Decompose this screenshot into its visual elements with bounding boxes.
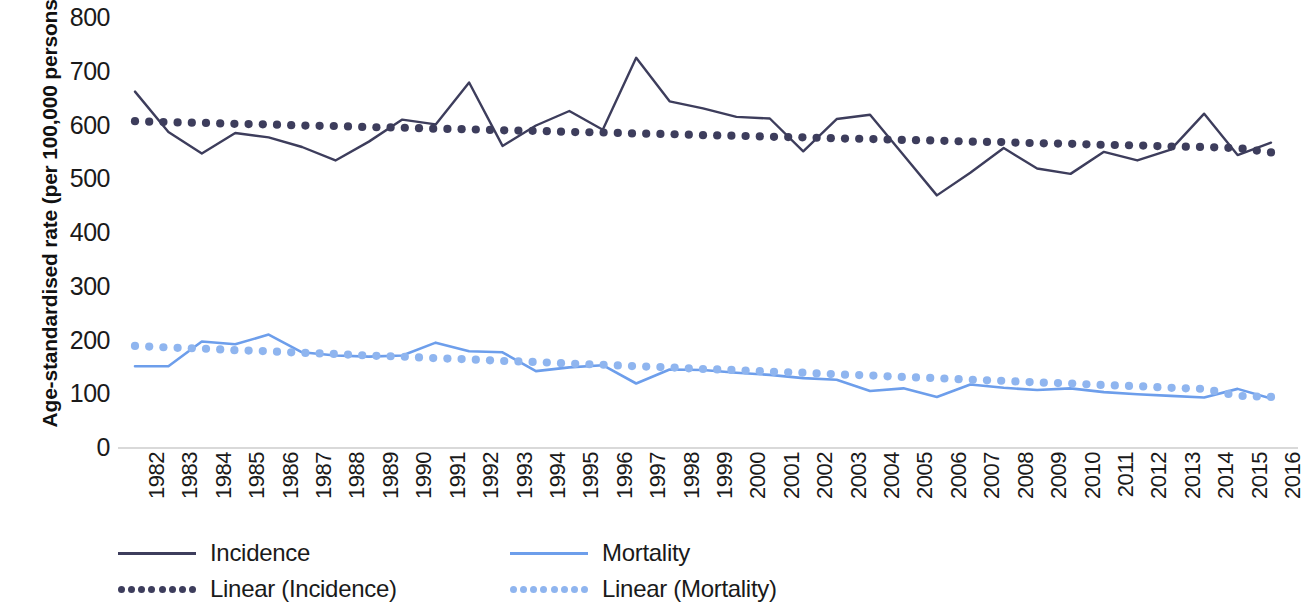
y-axis-tick-label: 600 [40, 113, 110, 138]
x-axis-tick-label: 1988 [346, 452, 368, 526]
y-axis-tick-label: 800 [40, 5, 110, 30]
y-axis-tick-label: 500 [40, 166, 110, 191]
x-axis-tick-label: 1986 [280, 452, 302, 526]
x-axis-tick-label: 1991 [447, 452, 469, 526]
legend-swatch-dotted-icon [510, 579, 588, 599]
y-axis-tick-label: 700 [40, 59, 110, 84]
x-axis-tick-label: 2002 [814, 452, 836, 526]
x-axis-tick-label: 1993 [514, 452, 536, 526]
x-axis-tick-label: 2009 [1048, 452, 1070, 526]
x-axis-tick-label: 2013 [1182, 452, 1204, 526]
y-axis-tick-label: 200 [40, 328, 110, 353]
trendline-linear-incidence- [131, 117, 1275, 156]
legend-label: Linear (Mortality) [602, 575, 777, 603]
x-axis-tick-label: 2010 [1082, 452, 1104, 526]
x-axis-tick-label: 2012 [1148, 452, 1170, 526]
x-axis-tick-label: 2015 [1249, 452, 1271, 526]
x-axis-tick-label: 1987 [313, 452, 335, 526]
x-axis-tick-label: 2006 [948, 452, 970, 526]
x-axis-tick-label: 2003 [848, 452, 870, 526]
legend-swatch-solid-icon [510, 543, 588, 563]
x-axis-tick-label: 1990 [413, 452, 435, 526]
x-axis-tick-label: 1989 [380, 452, 402, 526]
legend-label: Linear (Incidence) [210, 575, 397, 603]
chart-container: Age-standardised rate (per 100,000 perso… [0, 0, 1310, 606]
legend-swatch-solid-icon [118, 543, 196, 563]
x-axis-tick-label: 1984 [213, 452, 235, 526]
y-axis-tick-label: 400 [40, 220, 110, 245]
y-axis-tick-label: 0 [40, 435, 110, 460]
plot-area [118, 10, 1298, 450]
legend-label: Incidence [210, 539, 310, 567]
x-axis-tick-label: 1999 [714, 452, 736, 526]
x-axis-tick-label: 1994 [547, 452, 569, 526]
x-axis-tick-label: 2014 [1215, 452, 1237, 526]
x-axis-tick-label: 1983 [179, 452, 201, 526]
x-axis-tick-label: 1996 [614, 452, 636, 526]
x-axis-tick-labels: 1982198319841985198619871988198919901991… [118, 452, 1298, 526]
x-axis-tick-label: 1995 [580, 452, 602, 526]
x-axis-tick-label: 1982 [146, 452, 168, 526]
legend-item[interactable]: Linear (Incidence) [118, 574, 397, 604]
y-axis-tick-labels: 8007006005004003002001000 [38, 0, 110, 460]
legend-label: Mortality [602, 539, 690, 567]
x-axis-tick-label: 1985 [246, 452, 268, 526]
chart-legend: IncidenceLinear (Incidence)MortalityLine… [118, 538, 1118, 606]
x-axis-tick-label: 2016 [1282, 452, 1304, 526]
x-axis-tick-label: 2011 [1115, 452, 1137, 526]
legend-item[interactable]: Incidence [118, 538, 310, 568]
x-axis-tick-label: 2001 [781, 452, 803, 526]
x-axis-tick-label: 2004 [881, 452, 903, 526]
y-axis-tick-label: 300 [40, 274, 110, 299]
legend-item[interactable]: Linear (Mortality) [510, 574, 777, 604]
y-axis-tick-label: 100 [40, 381, 110, 406]
x-axis-tick-label: 2007 [981, 452, 1003, 526]
x-axis-tick-label: 2008 [1015, 452, 1037, 526]
x-axis-tick-label: 1992 [480, 452, 502, 526]
x-axis-tick-label: 2005 [914, 452, 936, 526]
legend-swatch-dotted-icon [118, 579, 196, 599]
x-axis-tick-label: 2000 [747, 452, 769, 526]
legend-item[interactable]: Mortality [510, 538, 690, 568]
x-axis-tick-label: 1998 [681, 452, 703, 526]
x-axis-tick-label: 1997 [647, 452, 669, 526]
